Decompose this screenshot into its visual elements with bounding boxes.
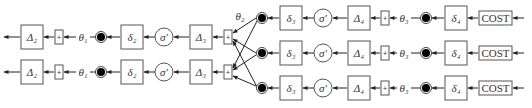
- node-icon: [258, 49, 266, 57]
- plus-label: +: [57, 69, 61, 76]
- theta1-label: θ₁: [78, 31, 87, 43]
- Delta4-label: Δ₄: [353, 47, 364, 59]
- node-icon: [422, 84, 430, 92]
- cost-label: COST: [481, 12, 509, 24]
- plus-label: +: [383, 15, 387, 22]
- Delta4-label: Δ₄: [353, 82, 364, 94]
- theta1-label: θ₁: [78, 66, 87, 78]
- delta3-label: δ₃: [287, 12, 296, 24]
- cost-label: COST: [481, 47, 509, 59]
- Delta3-label: Δ₃: [195, 66, 206, 78]
- backprop-diagram: Δ₂ + θ₁ δ₂ σ′ Δ₃ + Δ₂ + θ₁ δ₂: [0, 0, 532, 108]
- delta4-label: δ₄: [452, 12, 461, 24]
- sigma-prime-label: σ′: [319, 47, 327, 59]
- layer3-row-1: δ₃ σ′ Δ₄ + θ₃ δ₄ COST: [257, 6, 525, 30]
- sigma-prime-label: σ′: [160, 66, 168, 78]
- theta2-connections: θ₂: [233, 10, 257, 87]
- sigma-prime-label: σ′: [319, 12, 327, 24]
- Delta2-label: Δ₂: [26, 31, 37, 43]
- delta2-label: δ₂: [128, 31, 137, 43]
- plus-label: +: [383, 85, 387, 92]
- Delta3-label: Δ₃: [195, 31, 206, 43]
- node-icon: [258, 14, 266, 22]
- theta3-label: θ₃: [399, 47, 408, 59]
- delta3-label: δ₃: [287, 82, 296, 94]
- delta4-label: δ₄: [452, 82, 461, 94]
- layer2-row-2: Δ₂ + θ₁ δ₂ σ′ Δ₃ +: [4, 60, 232, 84]
- plus-label: +: [226, 34, 230, 41]
- layer3-row-3: δ₃ σ′ Δ₄ + θ₃ δ₄ COST: [257, 76, 525, 100]
- sigma-prime-label: σ′: [160, 31, 168, 43]
- arrow: [233, 21, 257, 68]
- plus-label: +: [383, 50, 387, 57]
- arrow: [233, 55, 256, 70]
- arrow: [233, 41, 257, 87]
- node-icon: [258, 84, 266, 92]
- layer3-row-2: δ₃ σ′ Δ₄ + θ₃ δ₄ COST: [257, 41, 525, 65]
- Delta4-label: Δ₄: [353, 12, 364, 24]
- node-icon: [422, 49, 430, 57]
- plus-label: +: [57, 34, 61, 41]
- Delta2-label: Δ₂: [26, 66, 37, 78]
- node-icon: [97, 33, 105, 41]
- sigma-prime-label: σ′: [319, 82, 327, 94]
- theta3-label: θ₃: [399, 12, 408, 24]
- delta4-label: δ₄: [452, 47, 461, 59]
- delta3-label: δ₃: [287, 47, 296, 59]
- layer2-row-1: Δ₂ + θ₁ δ₂ σ′ Δ₃ +: [4, 25, 232, 49]
- cost-label: COST: [481, 82, 509, 94]
- delta2-label: δ₂: [128, 66, 137, 78]
- node-icon: [97, 68, 105, 76]
- node-icon: [422, 14, 430, 22]
- theta3-label: θ₃: [399, 82, 408, 94]
- theta2-label: θ₂: [235, 10, 244, 22]
- plus-label: +: [226, 69, 230, 76]
